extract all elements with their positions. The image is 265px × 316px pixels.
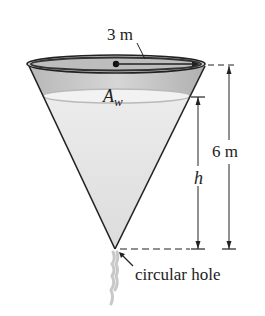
water-area-label-sub: w (114, 94, 123, 109)
water-height-arrow-up (196, 97, 201, 105)
water-stream (111, 252, 118, 304)
total-height-arrow-up (227, 66, 232, 74)
water-height-arrow-down (196, 241, 201, 249)
conical-tank-diagram: 3 m Aw 6 m h circular hole (0, 0, 265, 316)
water-height-label: h (194, 168, 203, 188)
radius-label: 3 m (107, 25, 133, 44)
hole-label: circular hole (135, 265, 220, 284)
total-height-label: 6 m (212, 142, 238, 161)
total-height-arrow-down (227, 241, 232, 249)
water-body (43, 96, 190, 249)
